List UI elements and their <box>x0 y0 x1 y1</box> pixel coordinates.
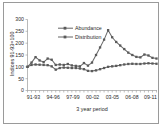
y-tick-label-250: 250 <box>15 28 24 34</box>
data-point <box>30 61 32 63</box>
data-point <box>139 56 141 58</box>
data-point <box>42 64 44 66</box>
data-point <box>47 57 49 59</box>
data-point <box>111 36 113 38</box>
data-point <box>139 63 141 65</box>
data-point <box>111 65 113 67</box>
data-point <box>147 62 149 64</box>
legend-marker-distribution <box>64 36 67 39</box>
data-point <box>47 64 49 66</box>
legend-marker-abundance <box>64 27 67 30</box>
data-point <box>59 63 61 65</box>
data-point <box>151 57 153 59</box>
data-point <box>143 53 145 55</box>
data-point <box>79 65 81 67</box>
data-point <box>103 67 105 69</box>
data-point <box>42 61 44 63</box>
y-tick-label-0: 0 <box>21 87 24 93</box>
legend-label-distribution: Distribution <box>75 34 102 40</box>
data-point <box>51 59 53 61</box>
data-point <box>127 63 129 65</box>
data-point <box>95 54 97 56</box>
data-point <box>151 62 153 64</box>
data-point <box>103 38 105 40</box>
legend-label-abundance: Abundance <box>75 25 102 31</box>
data-point <box>91 61 93 63</box>
x-tick-label-3: 00-02 <box>86 94 99 100</box>
data-point <box>155 57 157 59</box>
x-tick-label-4: 03-05 <box>106 94 119 100</box>
data-point <box>71 64 73 66</box>
line-chart: 300 250 200 150 100 50 0 Indices 91-93=1… <box>0 0 164 129</box>
data-point <box>123 63 125 65</box>
data-point <box>34 56 36 58</box>
data-point <box>63 66 65 68</box>
data-point <box>75 67 77 69</box>
x-axis-ticks <box>28 91 157 93</box>
data-point <box>99 46 101 48</box>
y-axis-tick-labels: 300 250 200 150 100 50 0 <box>15 16 24 93</box>
data-point <box>83 62 85 64</box>
data-point <box>63 64 65 66</box>
data-point <box>87 65 89 67</box>
data-point <box>51 65 53 67</box>
y-tick-label-50: 50 <box>18 76 24 82</box>
data-point <box>59 67 61 69</box>
data-point <box>107 66 109 68</box>
data-point <box>143 62 145 64</box>
data-point <box>131 63 133 65</box>
data-point <box>75 65 77 67</box>
data-point <box>38 64 40 66</box>
data-point <box>107 29 109 31</box>
x-tick-label-0: 91-93 <box>27 94 40 100</box>
data-point <box>155 63 157 65</box>
data-point <box>38 59 40 61</box>
data-point <box>119 44 121 46</box>
chart-container: 300 250 200 150 100 50 0 Indices 91-93=1… <box>0 0 164 129</box>
data-point <box>34 63 36 65</box>
data-point <box>91 70 93 72</box>
y-tick-label-150: 150 <box>15 52 24 58</box>
data-point <box>71 67 73 69</box>
data-point <box>55 69 57 71</box>
x-axis-title: 3 year period <box>76 106 107 112</box>
data-point <box>95 69 97 71</box>
data-point <box>115 41 117 43</box>
data-point <box>135 63 137 65</box>
chart-legend: Abundance Distribution <box>58 25 102 40</box>
data-point <box>115 65 117 67</box>
y-tick-label-300: 300 <box>15 16 24 22</box>
data-point <box>87 70 89 72</box>
data-point <box>26 66 28 68</box>
x-tick-label-5: 06-08 <box>125 94 138 100</box>
data-point <box>79 67 81 69</box>
data-point <box>55 64 57 66</box>
data-point <box>135 56 137 58</box>
x-tick-label-1: 94-96 <box>47 94 60 100</box>
data-point <box>119 64 121 66</box>
data-point <box>67 67 69 69</box>
data-point <box>83 68 85 70</box>
data-point <box>99 68 101 70</box>
y-tick-label-200: 200 <box>15 40 24 46</box>
x-tick-label-2: 97-99 <box>66 94 79 100</box>
data-point <box>123 48 125 50</box>
y-tick-label-100: 100 <box>15 64 24 70</box>
x-axis-tick-labels: 91-93 94-96 97-99 00-02 03-05 06-08 09-1… <box>27 94 157 100</box>
data-point <box>67 63 69 65</box>
y-axis-title: Indices 91-93=100 <box>9 31 15 76</box>
data-point <box>147 54 149 56</box>
data-point <box>131 54 133 56</box>
data-point <box>127 51 129 53</box>
data-point <box>30 64 32 66</box>
x-tick-label-6: 09-11 <box>144 94 157 100</box>
